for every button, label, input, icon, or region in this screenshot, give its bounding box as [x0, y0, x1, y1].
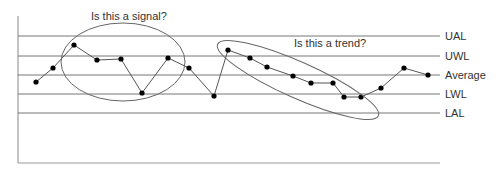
control-lines	[18, 36, 440, 113]
data-point	[330, 80, 335, 85]
data-point	[211, 93, 216, 98]
data-point	[33, 79, 38, 84]
data-point	[425, 72, 430, 77]
trend-annotation: Is this a trend?	[294, 37, 366, 49]
data-point	[50, 65, 55, 70]
label-average: Average	[445, 69, 486, 81]
signal-annotation: Is this a signal?	[91, 10, 167, 22]
data-line	[36, 45, 428, 97]
label-ual: UAL	[445, 30, 466, 42]
data-point	[165, 55, 170, 60]
data-point	[186, 65, 191, 70]
data-point	[290, 73, 295, 78]
data-point	[71, 42, 76, 47]
data-point	[139, 90, 144, 95]
control-chart: UAL UWL Average LWL LAL Is this a signal…	[0, 0, 500, 170]
label-lwl: LWL	[445, 88, 467, 100]
data-point	[401, 65, 406, 70]
label-uwl: UWL	[445, 50, 469, 62]
data-point	[225, 47, 230, 52]
data-point	[264, 64, 269, 69]
data-point	[308, 80, 313, 85]
data-point	[378, 85, 383, 90]
label-lal: LAL	[445, 107, 465, 119]
data-point	[247, 55, 252, 60]
data-point	[94, 57, 99, 62]
data-point	[118, 56, 123, 61]
data-point	[341, 94, 346, 99]
